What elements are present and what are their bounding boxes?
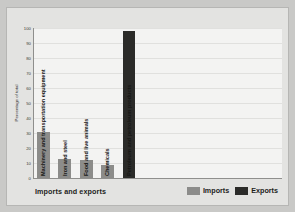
gridline [33,103,282,104]
gridline [33,58,282,59]
chart-legend: ImportsExports [187,186,278,195]
y-axis-tick-label: 60 [26,86,31,91]
y-axis-tick-label: 80 [26,56,31,61]
gridline [33,118,282,119]
legend-swatch [235,187,248,195]
bar-category-label: Machinery and transportation equipment [40,69,46,176]
bar-category-label: Chemicals [104,148,110,176]
gridline [33,148,282,149]
bar-category-label: Iron and steel [62,140,68,176]
legend-item: Exports [235,186,278,195]
y-axis-title: Percentage of total [14,85,19,122]
y-axis-tick-label: 0 [29,176,31,181]
x-axis-title: Imports and exports [35,187,106,196]
legend-item: Imports [187,186,229,195]
legend-label: Imports [203,186,229,195]
y-axis-tick-label: 90 [26,41,31,46]
gridline [33,43,282,44]
y-axis-tick-label: 20 [26,146,31,151]
gridline [33,28,282,29]
x-axis-line [33,178,282,179]
gridline [33,88,282,89]
y-axis-tick-label: 30 [26,131,31,136]
gridline [33,133,282,134]
chart-figure: Percentage of total 10090807060504030201… [6,7,289,206]
y-axis-tick-label: 70 [26,71,31,76]
y-axis-tick-label: 50 [26,101,31,106]
gridline [33,73,282,74]
y-axis-line [33,28,34,179]
legend-swatch [187,187,200,195]
bar-category-label: Petroleum and petroleum products [126,85,132,176]
legend-label: Exports [251,186,278,195]
bar-category-label: Food and live animals [83,119,89,176]
y-axis-tick-label: 100 [24,26,31,31]
plot-area: 1009080706050403020100Machinery and tran… [33,28,282,178]
y-axis-tick-label: 10 [26,161,31,166]
y-axis-tick-label: 40 [26,116,31,121]
